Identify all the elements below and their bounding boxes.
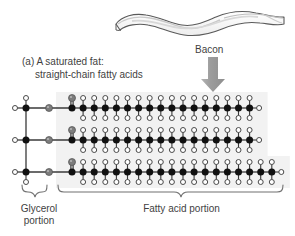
- glycerol-portion-label: Glycerol portion: [8, 203, 70, 227]
- carbon-atom: [124, 169, 131, 176]
- hydrogen-atom: [192, 96, 197, 101]
- hydrogen-atom: [214, 148, 219, 153]
- hydrogen-atom: [203, 116, 208, 121]
- carbon-atom: [102, 105, 109, 112]
- oxygen-atom: [46, 169, 53, 176]
- carbon-atom: [191, 105, 198, 112]
- hydrogen-atom: [81, 128, 86, 133]
- hydrogen-atom: [136, 160, 141, 165]
- triglyceride-structure-diagram: [0, 88, 295, 188]
- molecule-svg: [0, 88, 295, 188]
- hydrogen-atom: [181, 128, 186, 133]
- carbon-atom: [80, 169, 87, 176]
- carbon-atom: [202, 137, 209, 144]
- hydrogen-atom: [169, 160, 174, 165]
- hydrogen-atom: [136, 96, 141, 101]
- hydrogen-atom: [114, 160, 119, 165]
- carbon-atom: [213, 105, 220, 112]
- hydrogen-atom: [225, 128, 230, 133]
- hydrogen-atom: [92, 148, 97, 153]
- hydrogen-atom: [247, 148, 252, 153]
- carbon-atom: [23, 169, 30, 176]
- carbon-atom: [135, 105, 142, 112]
- carbon-atom: [213, 169, 220, 176]
- carbon-atom: [246, 169, 253, 176]
- carbon-atom: [69, 169, 76, 176]
- carbon-atom: [268, 169, 275, 176]
- hydrogen-atom: [214, 96, 219, 101]
- carbon-atom: [168, 137, 175, 144]
- hydrogen-atom: [114, 128, 119, 133]
- hydrogen-atom: [125, 160, 130, 165]
- oxygen-atom: [69, 127, 76, 134]
- hydrogen-atom: [158, 160, 163, 165]
- glycerol-brace-icon: [22, 185, 47, 197]
- carbon-atom: [191, 169, 198, 176]
- hydrogen-atom: [114, 116, 119, 121]
- hydrogen-atom: [136, 148, 141, 153]
- hydrogen-atom: [13, 106, 18, 111]
- hydrogen-atom: [92, 128, 97, 133]
- oxygen-atom: [46, 137, 53, 144]
- fatty-acid-brace-icon: [58, 185, 283, 197]
- hydrogen-atom: [181, 116, 186, 121]
- hydrogen-atom: [24, 96, 29, 101]
- carbon-atom: [213, 137, 220, 144]
- carbon-atom: [191, 137, 198, 144]
- bacon-label: Bacon: [195, 44, 265, 56]
- carbon-atom: [168, 105, 175, 112]
- hydrogen-atom: [236, 148, 241, 153]
- hydrogen-atom: [225, 148, 230, 153]
- carbon-atom: [69, 137, 76, 144]
- hydrogen-atom: [13, 138, 18, 143]
- hydrogen-atom: [92, 160, 97, 165]
- hydrogen-atom: [158, 148, 163, 153]
- hydrogen-atom: [147, 96, 152, 101]
- carbon-atom: [23, 105, 30, 112]
- hydrogen-atom: [181, 96, 186, 101]
- hydrogen-atom: [114, 148, 119, 153]
- hydrogen-atom: [225, 116, 230, 121]
- hydrogen-atom: [125, 96, 130, 101]
- carbon-atom: [157, 137, 164, 144]
- hydrogen-atom: [236, 116, 241, 121]
- carbon-atom: [180, 105, 187, 112]
- carbon-atom: [91, 137, 98, 144]
- carbon-atom: [146, 169, 153, 176]
- hydrogen-atom: [92, 116, 97, 121]
- hydrogen-atom: [181, 148, 186, 153]
- hydrogen-atom: [125, 116, 130, 121]
- oxygen-atom: [69, 95, 76, 102]
- hydrogen-atom: [92, 96, 97, 101]
- hydrogen-atom: [103, 128, 108, 133]
- hydrogen-atom: [192, 160, 197, 165]
- hydrogen-atom: [13, 170, 18, 175]
- carbon-atom: [124, 105, 131, 112]
- carbon-atom: [257, 169, 264, 176]
- carbon-atom: [180, 169, 187, 176]
- hydrogen-atom: [103, 116, 108, 121]
- hydrogen-atom: [203, 96, 208, 101]
- figure-saturated-fat: Bacon (a) A saturated fat: straight-chai…: [0, 0, 295, 236]
- figure-caption: (a) A saturated fat: straight-chain fatt…: [22, 56, 192, 81]
- hydrogen-atom: [269, 160, 274, 165]
- hydrogen-atom: [236, 96, 241, 101]
- carbon-atom: [113, 137, 120, 144]
- carbon-atom: [168, 169, 175, 176]
- carbon-atom: [80, 137, 87, 144]
- carbon-atom: [246, 105, 253, 112]
- hydrogen-atom: [203, 160, 208, 165]
- bacon-strip-icon: [112, 4, 288, 44]
- carbon-atom: [235, 137, 242, 144]
- hydrogen-atom: [81, 148, 86, 153]
- hydrogen-atom: [158, 96, 163, 101]
- caption-line-2: straight-chain fatty acids: [22, 69, 192, 82]
- brace-group: [0, 184, 295, 204]
- hydrogen-atom: [203, 128, 208, 133]
- hydrogen-atom: [236, 160, 241, 165]
- carbon-atom: [91, 169, 98, 176]
- hydrogen-atom: [81, 160, 86, 165]
- hydrogen-atom: [114, 96, 119, 101]
- hydrogen-atom: [125, 128, 130, 133]
- oxygen-atom: [69, 159, 76, 166]
